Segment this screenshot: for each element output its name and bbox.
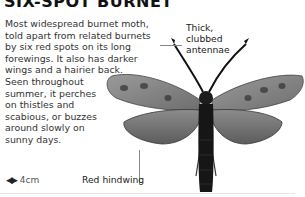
moth-illustration <box>0 0 305 197</box>
wingspan-value: 4cm <box>20 175 39 185</box>
annotation-line: Thick, <box>186 22 230 33</box>
antennae-leader-line <box>160 45 182 46</box>
wingspan-arrows-icon: ◀▶ <box>6 175 16 185</box>
antennae-annotation: Thick, clubbed antennae <box>186 22 230 55</box>
annotation-line: clubbed <box>186 33 230 44</box>
bottom-divider <box>0 193 295 194</box>
annotation-line: antennae <box>186 44 230 55</box>
hindwing-annotation: Red hindwing <box>82 174 144 185</box>
wingspan-size: ◀▶ 4cm <box>6 175 39 185</box>
